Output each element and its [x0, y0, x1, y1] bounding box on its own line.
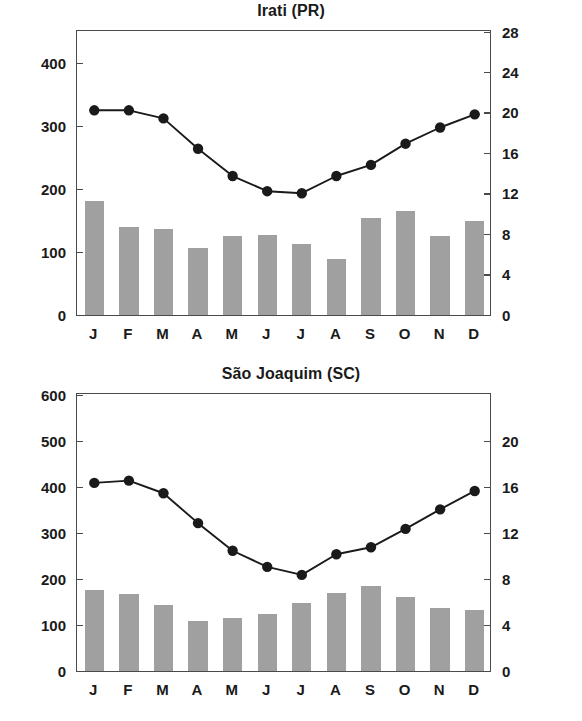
temperature-point: [470, 109, 480, 119]
temperature-point: [435, 504, 445, 514]
y2-axis-tick-label: 8: [502, 225, 542, 242]
chart-sao-joaquim: São Joaquim (SC) Precipitação (mm) Tempe…: [0, 360, 582, 721]
x-axis-month-label: A: [325, 325, 345, 342]
temperature-point: [331, 171, 341, 181]
y-axis-tick: [76, 579, 83, 581]
y2-axis-tick-label: 0: [502, 662, 542, 679]
temperature-point: [89, 105, 99, 115]
y-axis-tick-label: 100: [6, 243, 66, 260]
temperature-point: [400, 138, 410, 148]
x-axis-month-label: J: [83, 325, 103, 342]
y2-axis-tick: [484, 153, 491, 155]
x-axis-month-label: D: [464, 681, 484, 698]
temperature-point: [435, 122, 445, 132]
y2-axis-tick: [484, 671, 491, 673]
climatogram-page: Irati (PR) Precipitação (mm) Temperatura…: [0, 0, 582, 721]
temperature-point: [297, 188, 307, 198]
y2-axis-tick: [484, 32, 491, 34]
x-axis-month-label: J: [256, 681, 276, 698]
y2-axis-tick-label: 4: [502, 266, 542, 283]
temperature-point: [366, 160, 376, 170]
temperature-line-sao-joaquim: [77, 394, 492, 673]
temperature-point: [89, 478, 99, 488]
y-axis-tick: [76, 533, 83, 535]
temperature-point: [193, 518, 203, 528]
x-axis-month-label: D: [464, 325, 484, 342]
y2-axis-tick-label: 12: [502, 185, 542, 202]
chart-title-sao-joaquim: São Joaquim (SC): [0, 365, 582, 383]
temperature-point: [470, 486, 480, 496]
y2-axis-tick: [484, 112, 491, 114]
temperature-point: [158, 113, 168, 123]
y-axis-tick-label: 0: [6, 306, 66, 323]
x-axis-month-label: F: [118, 681, 138, 698]
x-axis-month-label: J: [291, 325, 311, 342]
y2-axis-tick: [484, 274, 491, 276]
temperature-point: [366, 542, 376, 552]
temperature-point: [400, 524, 410, 534]
plot-area-sao-joaquim: Precipitação (mm) Temperatura (ºC) 01002…: [76, 393, 491, 672]
y-axis-tick: [76, 671, 83, 673]
temperature-point: [124, 475, 134, 485]
y2-axis-tick-label: 20: [502, 104, 542, 121]
y-axis-tick: [76, 441, 83, 443]
x-axis-month-label: M: [152, 325, 172, 342]
y2-axis-tick: [484, 193, 491, 195]
x-axis-month-label: J: [291, 681, 311, 698]
y-axis-tick-label: 300: [6, 524, 66, 541]
y2-axis-tick-label: 0: [502, 306, 542, 323]
x-axis-month-label: M: [222, 325, 242, 342]
y2-axis-tick: [484, 234, 491, 236]
y-axis-tick-label: 600: [6, 386, 66, 403]
temperature-point: [227, 546, 237, 556]
y2-axis-tick-label: 20: [502, 432, 542, 449]
chart-irati: Irati (PR) Precipitação (mm) Temperatura…: [0, 0, 582, 360]
y-axis-tick: [76, 395, 83, 397]
y-axis-tick: [76, 63, 83, 65]
temperature-line-irati: [77, 31, 492, 317]
y2-axis-tick-label: 4: [502, 616, 542, 633]
temperature-point: [227, 171, 237, 181]
x-axis-month-label: A: [325, 681, 345, 698]
x-axis-month-label: J: [83, 681, 103, 698]
temperature-point: [158, 488, 168, 498]
y-axis-tick-label: 200: [6, 570, 66, 587]
plot-frame-sao-joaquim: [76, 393, 491, 672]
x-axis-month-label: A: [187, 325, 207, 342]
x-axis-month-label: M: [152, 681, 172, 698]
temperature-point: [331, 549, 341, 559]
y-axis-tick: [76, 315, 83, 317]
plot-frame-irati: [76, 30, 491, 316]
x-axis-month-label: S: [360, 681, 380, 698]
y2-axis-tick: [484, 579, 491, 581]
y-axis-tick-label: 400: [6, 54, 66, 71]
y2-axis-tick-label: 16: [502, 144, 542, 161]
x-axis-month-label: J: [256, 325, 276, 342]
y2-axis-tick: [484, 487, 491, 489]
temperature-point: [297, 570, 307, 580]
x-axis-month-label: F: [118, 325, 138, 342]
y-axis-tick-label: 500: [6, 432, 66, 449]
temperature-point: [193, 144, 203, 154]
y-axis-tick-label: 200: [6, 180, 66, 197]
plot-area-irati: Precipitação (mm) Temperatura (ºC) 01002…: [76, 30, 491, 316]
y2-axis-tick: [484, 441, 491, 443]
temperature-point: [124, 105, 134, 115]
y-axis-tick-label: 400: [6, 478, 66, 495]
y2-axis-tick-label: 12: [502, 524, 542, 541]
y2-axis-tick: [484, 72, 491, 74]
temperature-point: [262, 562, 272, 572]
temperature-point: [262, 186, 272, 196]
y2-axis-tick-label: 24: [502, 63, 542, 80]
y-axis-tick-label: 0: [6, 662, 66, 679]
chart-title-irati: Irati (PR): [0, 2, 582, 20]
x-axis-month-label: S: [360, 325, 380, 342]
x-axis-month-label: N: [429, 325, 449, 342]
y-axis-tick: [76, 487, 83, 489]
y2-axis-tick-label: 8: [502, 570, 542, 587]
y-axis-tick: [76, 625, 83, 627]
x-axis-month-label: M: [222, 681, 242, 698]
y2-axis-tick: [484, 625, 491, 627]
y-axis-tick-label: 300: [6, 117, 66, 134]
x-axis-month-label: O: [395, 681, 415, 698]
